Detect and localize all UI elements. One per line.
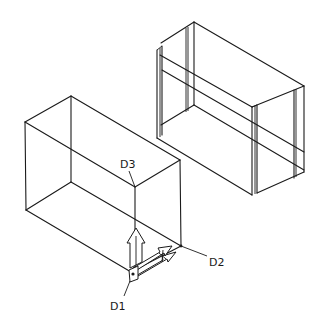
right-box [157, 22, 304, 195]
left-box [25, 96, 181, 272]
label-d3-text: D3 [120, 158, 135, 171]
label-d2: D2 [180, 245, 225, 269]
label-d1-text: D1 [110, 300, 125, 313]
label-d1: D1 [110, 281, 130, 313]
diagram-canvas: D3 D2 D1 [0, 0, 317, 327]
ucs-arrows-icon [127, 228, 176, 282]
label-d2-text: D2 [209, 256, 224, 269]
